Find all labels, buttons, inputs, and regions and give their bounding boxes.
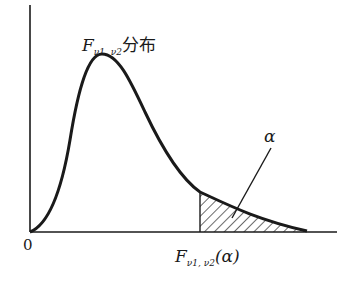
tail-area-label: α	[264, 126, 275, 146]
critical-base: F	[175, 246, 187, 266]
title-suffix: 分布	[122, 35, 156, 55]
diagram-graphic	[0, 0, 347, 286]
critical-subscript: ν1, ν2	[187, 258, 215, 268]
tail-area-hatch	[200, 185, 310, 233]
critical-suffix: (α)	[215, 246, 240, 266]
origin-label: 0	[23, 236, 33, 254]
title-base: F	[82, 35, 94, 55]
title-subscript: ν1, ν2	[94, 47, 122, 57]
f-distribution-diagram: Fν1, ν2分布 α 0 Fν1, ν2(α)	[0, 0, 347, 286]
distribution-title: Fν1, ν2分布	[82, 31, 156, 56]
alpha-leader-line	[232, 148, 271, 218]
critical-value-label: Fν1, ν2(α)	[175, 246, 240, 266]
